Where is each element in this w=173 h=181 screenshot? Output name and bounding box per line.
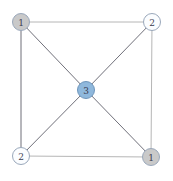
graph-edge-edge-tr-center [86, 22, 152, 90]
graph-node-bottom-left[interactable]: 2 [13, 148, 30, 165]
node-circle-bottom-right[interactable] [143, 149, 160, 166]
graph-node-bottom-right[interactable]: 1 [143, 149, 160, 166]
graph-edge-edge-bottom [21, 156, 151, 157]
graph-node-top-left[interactable]: 1 [13, 14, 30, 31]
graph-canvas: 12321 [0, 0, 173, 181]
graph-node-center[interactable]: 3 [78, 82, 95, 99]
graph-node-top-right[interactable]: 2 [144, 14, 161, 31]
graph-figure: 12321 [0, 0, 173, 181]
node-circle-bottom-left[interactable] [13, 148, 30, 165]
graph-edge-edge-br-center [86, 90, 151, 157]
graph-edge-edge-bl-center [21, 90, 86, 156]
node-circle-top-right[interactable] [144, 14, 161, 31]
graph-edge-edge-right [151, 22, 152, 157]
graph-edge-edge-tl-center [21, 22, 86, 90]
node-circle-center[interactable] [78, 82, 95, 99]
node-circle-top-left[interactable] [13, 14, 30, 31]
